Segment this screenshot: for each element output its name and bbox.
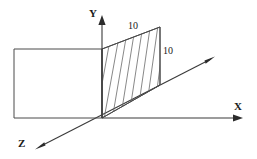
y-axis-label: Y <box>89 7 97 19</box>
hatched-rectangle-left <box>14 49 102 118</box>
hatched-parallelogram-right <box>94 22 166 142</box>
y-axis <box>98 15 105 118</box>
figure-canvas: Y X Z 10 10 <box>0 0 257 159</box>
parallelogram-hatching <box>94 22 166 142</box>
z-axis-arrowhead-far <box>205 57 216 64</box>
dimension-label-top: 10 <box>128 20 138 31</box>
rectangle-outline <box>14 49 102 118</box>
coordinate-diagram: Y X Z 10 10 <box>0 0 257 159</box>
z-axis-arrowhead-near <box>35 142 46 149</box>
x-axis-label: X <box>234 100 242 112</box>
dimension-label-right: 10 <box>163 45 173 56</box>
z-axis <box>35 57 215 150</box>
z-axis-label: Z <box>18 137 25 149</box>
z-axis-line <box>41 59 211 146</box>
y-axis-arrowhead <box>98 15 105 25</box>
x-axis-arrowhead <box>233 114 243 121</box>
x-axis <box>102 114 243 121</box>
